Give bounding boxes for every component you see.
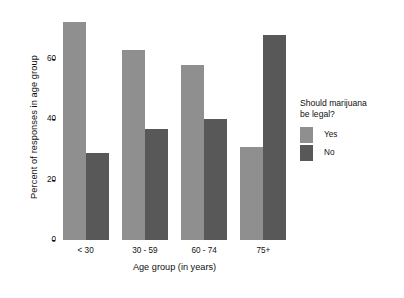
- y-tick-mark: [52, 240, 55, 241]
- legend-label: No: [324, 148, 334, 157]
- legend-title: Should marijuana be legal?: [300, 98, 404, 120]
- bar-no[interactable]: [86, 153, 109, 240]
- bar-no[interactable]: [204, 119, 227, 240]
- plot-area: [56, 14, 293, 240]
- x-tick-label: 30 - 59: [115, 246, 174, 255]
- x-tick-label: < 30: [56, 246, 115, 255]
- legend-swatch-icon: [300, 127, 313, 143]
- bar-yes[interactable]: [181, 65, 204, 240]
- bar-no[interactable]: [263, 35, 286, 240]
- legend-item-no[interactable]: No: [300, 144, 404, 161]
- bar-group: [122, 14, 168, 240]
- y-tick-label: 20: [16, 176, 56, 184]
- bar-group: [240, 14, 286, 240]
- legend: Should marijuana be legal? YesNo: [300, 98, 404, 162]
- y-tick-label: 40: [16, 115, 56, 123]
- x-axis-title: Age group (in years): [56, 262, 293, 272]
- legend-label: Yes: [324, 130, 337, 139]
- y-tick-mark: [52, 180, 55, 181]
- legend-entries: YesNo: [300, 126, 404, 161]
- y-tick-mark: [52, 59, 55, 60]
- bar-yes[interactable]: [63, 22, 86, 240]
- bar-no[interactable]: [145, 129, 168, 240]
- bar-yes[interactable]: [122, 50, 145, 240]
- x-tick-label: 60 - 74: [175, 246, 234, 255]
- bar-chart-figure: Percent of responses in age group 020406…: [0, 0, 404, 298]
- x-tick-label: 75+: [234, 246, 293, 255]
- bar-group: [181, 14, 227, 240]
- legend-swatch-icon: [300, 145, 313, 161]
- bar-group: [63, 14, 109, 240]
- y-tick-label: 60: [16, 55, 56, 63]
- y-tick-mark: [52, 119, 55, 120]
- bar-yes[interactable]: [240, 147, 263, 240]
- legend-item-yes[interactable]: Yes: [300, 126, 404, 143]
- y-tick-label: 0: [16, 236, 56, 244]
